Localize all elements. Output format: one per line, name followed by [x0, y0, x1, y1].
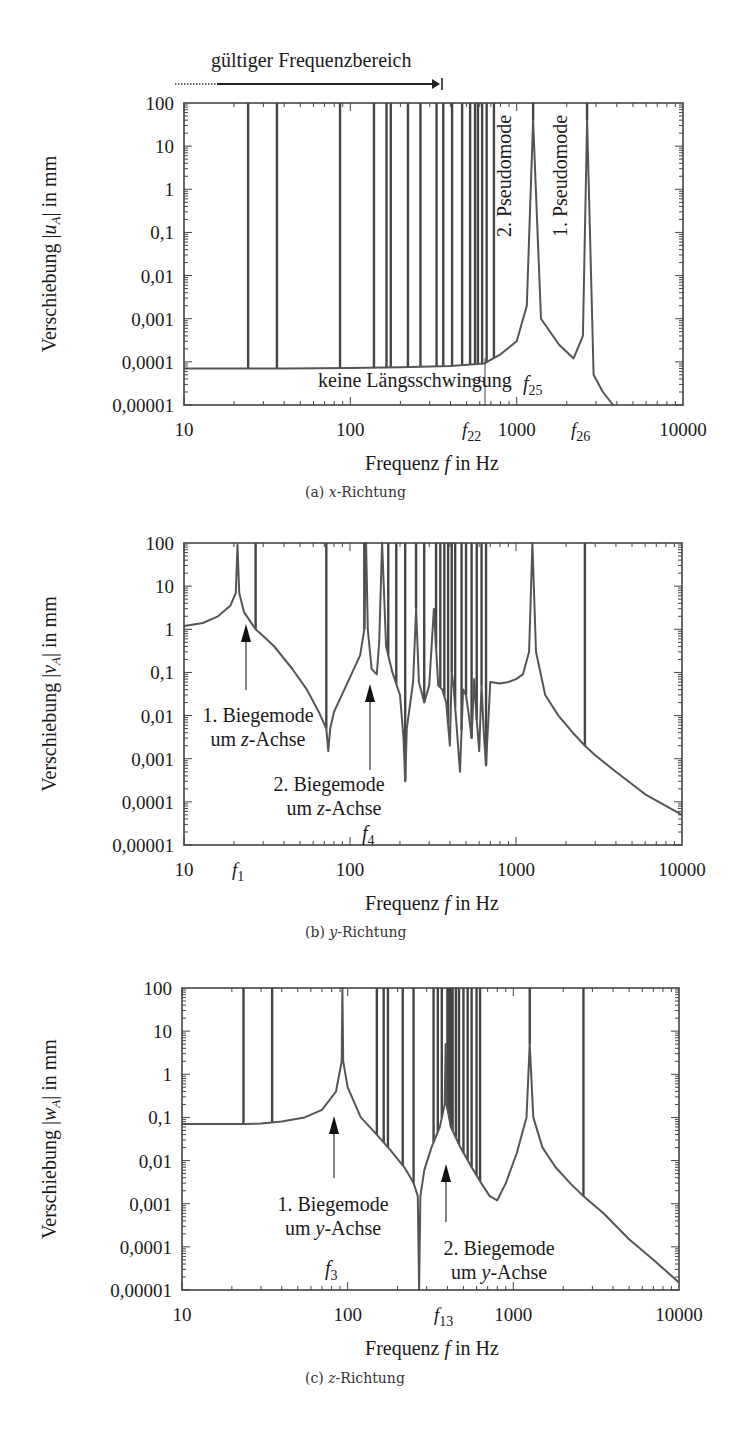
svg-text:Verschiebung |uA| in mm: Verschiebung |uA| in mm	[38, 155, 63, 352]
mode2-label-line1: 2. Biegemode	[443, 1237, 554, 1260]
x-tick-label: 10000	[658, 859, 706, 880]
axes-c: 101001000100001001010,10,010,0010,00010,…	[110, 978, 703, 1325]
plot-frame	[184, 543, 682, 845]
f4-label: f4	[362, 822, 375, 848]
plot-b: 101001000100001001010,10,010,0010,00010,…	[38, 533, 706, 940]
y-tick-label: 0,00001	[112, 835, 174, 856]
no-longitudinal-label: keine Längsschwingung	[318, 369, 512, 392]
figure: gültiger Frequenzbereich 101001000100001…	[0, 0, 756, 1432]
plot-frame	[184, 103, 683, 405]
y-tick-label: 100	[144, 978, 173, 999]
f1-tick-label: f1	[232, 859, 244, 884]
y-tick-label: 0,00001	[112, 395, 174, 416]
x-tick-label: 10	[175, 419, 194, 440]
mode2-label-line1: 2. Biegemode	[273, 773, 384, 796]
y-tick-label: 0,001	[131, 749, 174, 770]
mode2-label-line2: um y-Achse	[451, 1261, 547, 1284]
svg-text:1. Pseudomode: 1. Pseudomode	[549, 115, 571, 237]
mode1-label-line1: 1. Biegemode	[202, 704, 313, 727]
mode1-label-line1: 1. Biegemode	[277, 1193, 388, 1216]
plot-c: 101001000100001001010,10,010,0010,00010,…	[38, 978, 703, 1386]
f13-tick-label: f13	[434, 1304, 453, 1329]
y-tick-label: 0,0001	[122, 352, 174, 373]
y-tick-label: 100	[146, 93, 175, 114]
f25-label: f25	[523, 372, 543, 398]
y-tick-label: 1	[165, 179, 175, 200]
y-tick-label: 0,0001	[122, 792, 174, 813]
caption-b: (b) y-Richtung	[305, 924, 407, 940]
mode1-arrow-head-icon	[329, 1116, 339, 1134]
caption-a: (a) x-Richtung	[305, 484, 406, 500]
svg-text:Verschiebung |wA| in mm: Verschiebung |wA| in mm	[38, 1039, 63, 1239]
y-tick-label: 0,1	[148, 1107, 172, 1128]
y-axis-title-c: Verschiebung |wA| in mm	[38, 1039, 63, 1239]
mode1-arrow-head-icon	[241, 624, 251, 642]
x-axis-title-a: Frequenz f in Hz	[365, 452, 499, 475]
x-tick-label: 1000	[494, 1304, 532, 1325]
y-tick-label: 0,1	[150, 222, 174, 243]
x-tick-label: 100	[336, 419, 365, 440]
y-tick-label: 0,1	[150, 662, 174, 683]
plot-a: gültiger Frequenzbereich 101001000100001…	[38, 49, 707, 500]
y-tick-label: 0,01	[139, 1151, 172, 1172]
y-tick-label: 10	[155, 136, 174, 157]
y-tick-label: 0,01	[141, 266, 174, 287]
x-tick-label: 1000	[497, 859, 535, 880]
response-curve-y	[184, 543, 682, 815]
f26-tick-label: f26	[571, 419, 590, 444]
y-axis-title-a: Verschiebung |uA| in mm	[38, 155, 63, 352]
y-tick-label: 1	[165, 619, 175, 640]
mode1-label-line2: um y-Achse	[285, 1217, 381, 1240]
pseudomode-1-label: 1. Pseudomode	[549, 115, 571, 237]
y-tick-label: 10	[155, 576, 174, 597]
y-tick-label: 1	[163, 1064, 173, 1085]
x-tick-label: 10000	[659, 419, 707, 440]
y-tick-label: 0,0001	[120, 1237, 172, 1258]
pseudomode-2-label: 2. Pseudomode	[493, 115, 515, 237]
x-axis-title-b: Frequenz f in Hz	[365, 892, 499, 915]
f22-tick-label: f22	[462, 419, 481, 444]
x-tick-label: 1000	[498, 419, 536, 440]
y-tick-label: 0,001	[129, 1194, 172, 1215]
mode2-label-line2: um z-Achse	[287, 797, 382, 819]
y-tick-label: 0,01	[141, 706, 174, 727]
x-tick-label: 10	[175, 859, 194, 880]
y-axis-title-b: Verschiebung |vA| in mm	[38, 596, 63, 792]
mode2-arrow-head-icon	[365, 684, 375, 702]
mode1-label-line2: um z-Achse	[211, 728, 306, 750]
x-tick-label: 100	[336, 859, 365, 880]
y-tick-label: 100	[146, 533, 175, 554]
mode2-arrow-head-icon	[441, 1164, 451, 1182]
svg-text:Verschiebung |vA| in mm: Verschiebung |vA| in mm	[38, 596, 63, 792]
range-arrow-head-icon	[432, 79, 440, 89]
y-tick-label: 0,001	[131, 309, 174, 330]
x-tick-label: 10	[173, 1304, 192, 1325]
f3-label: f3	[325, 1257, 338, 1283]
resonance-spikes	[248, 103, 587, 369]
valid-range-label: gültiger Frequenzbereich	[211, 49, 411, 72]
x-tick-label: 10000	[655, 1304, 703, 1325]
x-axis-title-c: Frequenz f in Hz	[365, 1337, 499, 1360]
response-curve-z	[182, 988, 679, 1290]
x-tick-label: 100	[333, 1304, 362, 1325]
y-tick-label: 0,00001	[110, 1280, 172, 1301]
caption-c: (c) z-Richtung	[305, 1370, 405, 1386]
plot-frame	[182, 988, 679, 1290]
svg-text:2. Pseudomode: 2. Pseudomode	[493, 115, 515, 237]
y-tick-label: 10	[153, 1021, 172, 1042]
